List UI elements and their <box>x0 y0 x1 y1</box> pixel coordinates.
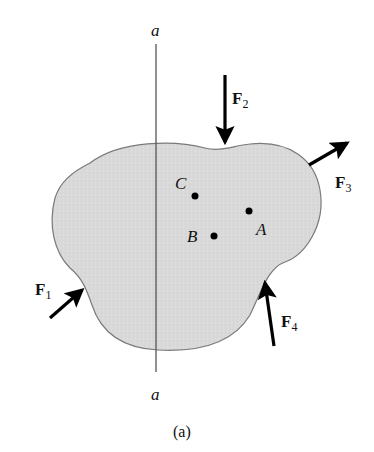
force-f3-arrow-icon <box>309 143 347 165</box>
svg-text:F1: F1 <box>35 280 51 302</box>
figure-caption: (a) <box>173 423 191 441</box>
force-f3-subscript: 3 <box>345 181 351 195</box>
force-f1-subscript: 1 <box>45 288 51 302</box>
force-f4-arrow-icon <box>265 283 274 346</box>
force-f1: F1 <box>35 280 82 318</box>
force-f4-subscript: 4 <box>291 320 297 334</box>
axis-label-bottom: a <box>151 385 160 404</box>
force-f2-subscript: 2 <box>242 97 248 111</box>
svg-text:F2: F2 <box>232 89 248 111</box>
point-c-dot <box>192 193 199 200</box>
force-f2: F2 <box>225 75 248 142</box>
point-a-dot <box>246 208 253 215</box>
axis-label-top: a <box>151 21 160 40</box>
force-f4: F4 <box>265 283 297 346</box>
force-f1-symbol: F <box>35 280 45 299</box>
svg-text:F3: F3 <box>335 173 351 195</box>
force-f3-symbol: F <box>335 173 345 192</box>
point-a-label: A <box>255 220 267 239</box>
force-f2-symbol: F <box>232 89 242 108</box>
point-c-label: C <box>175 174 187 193</box>
svg-text:F4: F4 <box>281 312 297 334</box>
point-b-dot <box>211 233 218 240</box>
force-f4-symbol: F <box>281 312 291 331</box>
rigid-body-force-diagram: a a C A B F2 F3 F1 F4 (a) <box>0 0 374 452</box>
point-b-label: B <box>187 227 198 246</box>
force-f1-arrow-icon <box>50 290 82 318</box>
